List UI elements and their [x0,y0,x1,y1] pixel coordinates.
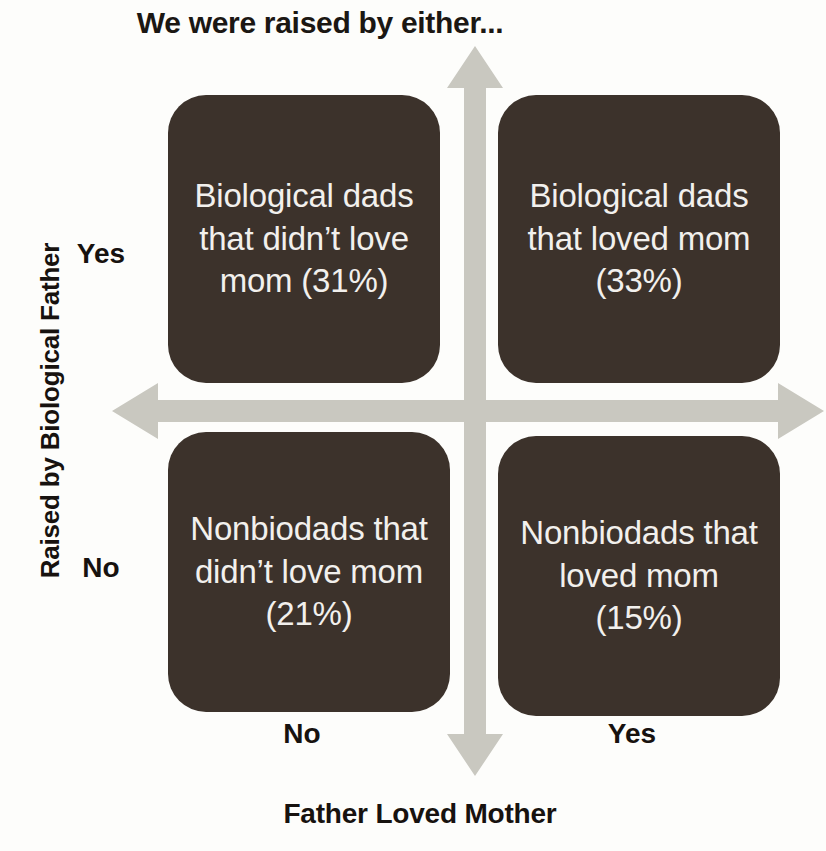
quadrant-nonbiodads-loved-mom: Nonbiodads that loved mom (15%) [498,436,780,716]
quadrant-label: Nonbiodads that loved mom (15%) [512,512,766,641]
quadrant-label: Nonbiodads that didn’t love mom (21%) [182,508,436,637]
page-title: We were raised by either... [0,6,640,40]
quadrant-biological-dads-loved-mom: Biological dads that loved mom (33%) [498,95,780,383]
quadrant-diagram: We were raised by either... Biological d… [0,0,826,851]
x-axis-tick-no: No [222,718,382,750]
x-axis-tick-yes: Yes [552,718,712,750]
quadrant-biological-dads-didnt-love-mom: Biological dads that didn’t love mom (31… [168,95,440,383]
x-axis-title: Father Loved Mother [120,798,720,830]
quadrant-label: Biological dads that loved mom (33%) [512,175,766,304]
quadrant-label: Biological dads that didn’t love mom (31… [182,175,426,304]
y-axis-tick-no: No [46,552,156,584]
y-axis-tick-yes: Yes [46,238,156,270]
quadrant-nonbiodads-didnt-love-mom: Nonbiodads that didn’t love mom (21%) [168,432,450,712]
